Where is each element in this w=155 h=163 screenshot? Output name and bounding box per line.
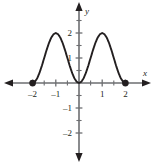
endpoint-dot bbox=[123, 80, 128, 85]
x-tick-label: –2 bbox=[27, 89, 37, 99]
y-axis-label: y bbox=[84, 6, 89, 16]
y-tick-label: –2 bbox=[62, 128, 72, 138]
function-plot: –2–11221–1–2xy bbox=[0, 0, 155, 163]
y-tick-label: 2 bbox=[68, 28, 73, 38]
x-tick-label: 2 bbox=[123, 89, 128, 99]
graph-container: –2–11221–1–2xy bbox=[0, 0, 155, 163]
x-axis-label: x bbox=[142, 68, 147, 78]
y-tick-label: –1 bbox=[62, 103, 72, 113]
x-tick-label: 1 bbox=[100, 89, 105, 99]
x-tick-label: –1 bbox=[50, 89, 60, 99]
y-tick-label: 1 bbox=[68, 53, 73, 63]
endpoint-dot bbox=[30, 80, 35, 85]
